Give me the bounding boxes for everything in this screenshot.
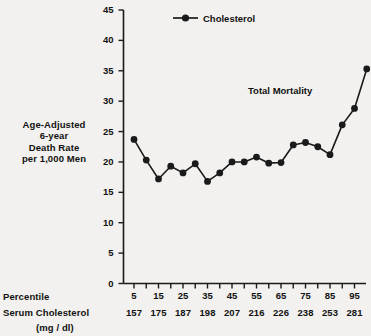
- data-point: [290, 142, 297, 149]
- data-point: [216, 169, 223, 176]
- x-tick-label-percentile: 75: [293, 290, 319, 301]
- data-point: [241, 159, 248, 166]
- data-point: [229, 159, 236, 166]
- y-tick-label: 10: [94, 217, 114, 228]
- data-point: [351, 105, 358, 112]
- x-tick-label-serum: 216: [244, 307, 270, 318]
- data-point: [265, 160, 272, 167]
- series-points-cholesterol: [131, 66, 371, 185]
- x-tick-label-percentile: 5: [121, 290, 147, 301]
- data-point: [278, 159, 285, 166]
- y-tick-label: 5: [94, 247, 114, 258]
- x-tick-label-serum: 175: [146, 307, 172, 318]
- data-point: [314, 143, 321, 150]
- axes: [124, 10, 367, 284]
- chart-container: Age-Adjusted 6-year Death Rate per 1,000…: [0, 0, 371, 336]
- x-tick-label-serum: 198: [195, 307, 221, 318]
- y-tick-label: 30: [94, 95, 114, 106]
- legend-marker-dot: [182, 14, 189, 21]
- x-tick-label-serum: 238: [293, 307, 319, 318]
- data-point: [253, 154, 260, 161]
- x-tick-label-percentile: 55: [244, 290, 270, 301]
- y-tick-label: 40: [94, 34, 114, 45]
- x-tick-label-serum: 253: [317, 307, 343, 318]
- plot-area: [0, 0, 371, 336]
- x-tick-label-serum: 157: [121, 307, 147, 318]
- x-tick-label-percentile: 45: [219, 290, 245, 301]
- x-tick-label-serum: 226: [268, 307, 294, 318]
- y-tick-label: 15: [94, 186, 114, 197]
- y-tick-label: 45: [94, 4, 114, 15]
- y-tick-label: 20: [94, 156, 114, 167]
- x-tick-label-percentile: 35: [195, 290, 221, 301]
- series-cholesterol: [131, 66, 371, 185]
- y-tick-label: 0: [94, 278, 114, 289]
- x-tick-label-percentile: 25: [170, 290, 196, 301]
- data-point: [155, 176, 162, 183]
- y-tick-label: 25: [94, 126, 114, 137]
- x-tick-label-percentile: 65: [268, 290, 294, 301]
- data-point: [180, 169, 187, 176]
- data-point: [131, 136, 138, 143]
- y-tick-label: 35: [94, 65, 114, 76]
- x-tick-label-percentile: 85: [317, 290, 343, 301]
- data-point: [204, 178, 211, 185]
- x-tick-label-serum: 281: [342, 307, 368, 318]
- x-tick-label-percentile: 95: [342, 290, 368, 301]
- x-tick-label-serum: 187: [170, 307, 196, 318]
- data-point: [363, 66, 370, 73]
- data-point: [143, 157, 150, 164]
- data-point: [339, 121, 346, 128]
- data-point: [167, 163, 174, 170]
- x-tick-label-serum: 207: [219, 307, 245, 318]
- legend-marker: [173, 14, 198, 21]
- data-point: [192, 160, 199, 167]
- data-point: [327, 151, 334, 158]
- x-tick-label-percentile: 15: [146, 290, 172, 301]
- data-point: [302, 139, 309, 146]
